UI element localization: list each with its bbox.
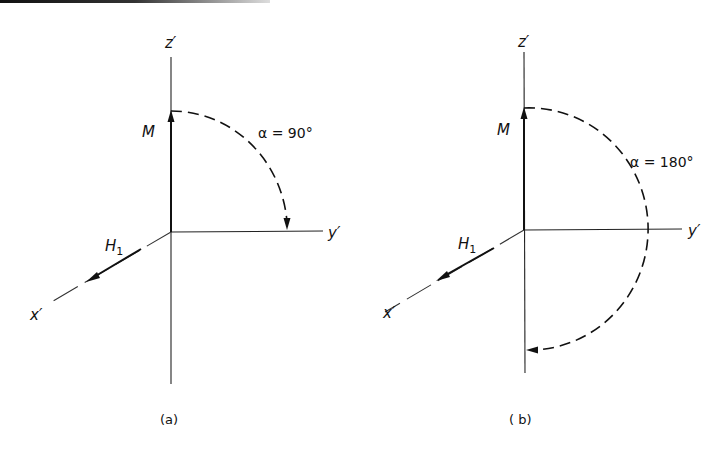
h1-arrowhead-b [436,271,450,281]
panel-b: z′ y′ x′ M H1 α = 180° ( b) [382,33,701,427]
z-axis-label-a: z′ [164,34,177,52]
y-axis-label-b: y′ [687,222,701,240]
y-axis-b [524,229,682,230]
m-arrowhead-b [521,107,528,119]
angle-label-b: α = 180° [630,154,694,170]
x-axis-label-b: x′ [382,304,396,322]
h1-label-b: H1 [458,235,476,256]
caption-a: (a) [160,412,178,427]
y-axis-label-a: y′ [327,224,341,242]
m-label-a: M [142,123,155,141]
h1-arrowhead-a [86,272,100,282]
page-top-border [0,0,270,3]
panel-a: z′ y′ x′ M H1 α = 90° (a) [29,34,341,427]
h1-label-a: H1 [105,237,123,258]
diagram-canvas: z′ y′ x′ M H1 α = 90° (a) z′ [0,0,723,450]
magnetization-rotation-figure: z′ y′ x′ M H1 α = 90° (a) z′ [0,0,723,450]
arc-arrowhead-b [526,347,538,354]
arc-arrowhead-a [284,218,291,230]
z-axis-label-b: z′ [517,33,530,51]
angle-label-a: α = 90° [258,125,313,141]
caption-b: ( b) [509,412,532,427]
m-label-b: M [497,121,510,139]
x-axis-label-a: x′ [29,306,43,324]
y-axis-a [171,231,323,232]
